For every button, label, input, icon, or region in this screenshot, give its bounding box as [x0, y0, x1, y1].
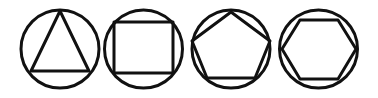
shape-group-triangle — [21, 10, 99, 88]
circle-outline-1 — [21, 10, 99, 88]
inscribed-triangle — [31, 11, 89, 71]
shape-group-pentagon — [192, 10, 270, 88]
shape-group-hexagon — [280, 10, 358, 88]
figure-canvas — [0, 0, 378, 98]
circle-outline-4 — [280, 10, 358, 88]
inscribed-polygons-figure — [0, 0, 378, 98]
shape-group-square — [105, 10, 183, 88]
circle-outline-3 — [192, 10, 270, 88]
inscribed-square — [114, 22, 173, 73]
inscribed-hexagon — [282, 20, 356, 79]
